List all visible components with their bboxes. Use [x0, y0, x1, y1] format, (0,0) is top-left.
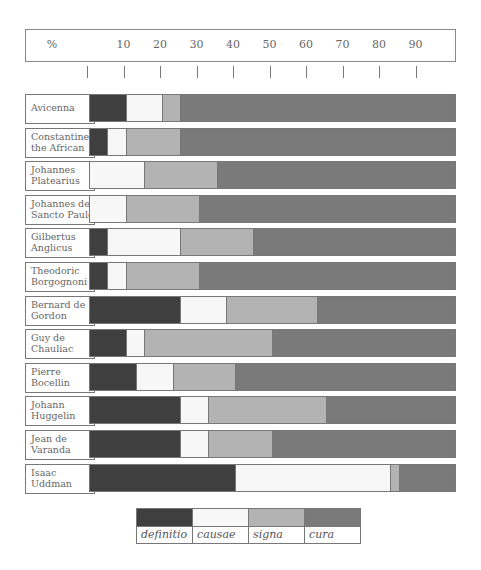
row-label-line2: Bocellin: [31, 377, 94, 388]
axis-tick-mark: [306, 66, 307, 78]
row-label-line2: Sancto Paulo: [31, 209, 94, 220]
row-label-line1: Jean de: [31, 433, 94, 444]
bar-segment-signa: [181, 229, 254, 255]
bar-segment-definitio: [90, 297, 181, 323]
bar-segment-cura: [181, 129, 455, 155]
axis-tick-mark: [343, 66, 344, 78]
axis-tick-mark: [416, 66, 417, 78]
row-label-line1: Bernard de: [31, 299, 94, 310]
axis-tick-label: 10: [117, 38, 131, 51]
axis-tick-mark: [233, 66, 234, 78]
legend-swatch-definitio: [137, 509, 193, 526]
axis-header-box: [25, 29, 456, 62]
bar-segment-signa: [145, 162, 218, 188]
row-label: Jean deVaranda: [25, 430, 95, 460]
row-label-line2: the African: [31, 142, 94, 153]
bar-segment-cura: [236, 364, 455, 390]
bar-segment-cura: [273, 431, 456, 457]
bar-segment-cura: [181, 95, 455, 121]
bar-segment-cura: [327, 397, 455, 423]
row-label: GilbertusAnglicus: [25, 228, 95, 258]
row-label-line2: Chauliac: [31, 343, 94, 354]
legend-label-cura: cura: [305, 527, 360, 543]
bar-segment-causae: [181, 431, 208, 457]
bar-segment-cura: [218, 162, 455, 188]
bar-segment-causae: [108, 129, 126, 155]
row-label-line2: Gordon: [31, 310, 94, 321]
bar-segment-causae: [127, 330, 145, 356]
bar-segment-signa: [163, 95, 181, 121]
row-label: IsaacUddman: [25, 464, 95, 494]
chart-row: TheodoricBorgognoni: [25, 262, 455, 290]
bar-segment-causae: [137, 364, 174, 390]
legend-swatch-signa: [249, 509, 305, 526]
row-label-line1: Johann: [31, 399, 94, 410]
row-label-line1: Gilbertus: [31, 231, 94, 242]
bar-segment-cura: [200, 263, 456, 289]
legend-label-signa: signa: [249, 527, 305, 543]
bar-segment-causae: [90, 196, 127, 222]
bar-segment-signa: [174, 364, 236, 390]
stacked-bar: [89, 464, 456, 492]
row-label: Constantinethe African: [25, 128, 95, 158]
legend-labels: definitiocausaesignacura: [137, 526, 360, 543]
bar-segment-causae: [127, 95, 164, 121]
row-label-line1: Guy de: [31, 332, 94, 343]
row-label-line1: Theodoric: [31, 265, 94, 276]
row-label-line2: Varanda: [31, 444, 94, 455]
bar-segment-signa: [209, 397, 328, 423]
axis-tick-label: 20: [153, 38, 167, 51]
legend-swatch-cura: [305, 509, 360, 526]
stacked-bar: [89, 161, 456, 189]
bar-segment-causae: [90, 162, 145, 188]
chart-row: JohannHuggelin: [25, 396, 455, 424]
bar-segment-cura: [273, 330, 456, 356]
axis-tick-mark: [124, 66, 125, 78]
row-label-line1: Pierre: [31, 366, 94, 377]
legend-swatches: [137, 509, 360, 526]
bar-segment-definitio: [90, 330, 127, 356]
chart-row: PierreBocellin: [25, 363, 455, 391]
axis-tick-label: 60: [299, 38, 313, 51]
row-label: PierreBocellin: [25, 363, 95, 393]
axis-tick-mark: [270, 66, 271, 78]
axis-tick-mark: [160, 66, 161, 78]
row-label: Johannes deSancto Paulo: [25, 195, 95, 225]
axis-tick-mark: [197, 66, 198, 78]
row-label-line1: Johannes: [31, 164, 94, 175]
stacked-bar: [89, 396, 456, 424]
bar-segment-definitio: [90, 364, 137, 390]
axis-unit-label: %: [47, 38, 57, 51]
stacked-bar: [89, 363, 456, 391]
bar-segment-definitio: [90, 263, 108, 289]
chart-row: Bernard deGordon: [25, 296, 455, 324]
chart-row: Constantinethe African: [25, 128, 455, 156]
chart-row: Avicenna: [25, 94, 455, 122]
row-label-line1: Johannes de: [31, 198, 94, 209]
bar-segment-cura: [254, 229, 455, 255]
bar-segment-signa: [209, 431, 273, 457]
axis-tick-label: 90: [409, 38, 423, 51]
row-label-line1: Isaac: [31, 467, 94, 478]
bar-segment-causae: [108, 229, 181, 255]
axis-tick-label: 70: [336, 38, 350, 51]
bar-segment-definitio: [90, 397, 181, 423]
chart-row: GilbertusAnglicus: [25, 228, 455, 256]
bar-segment-signa: [127, 196, 200, 222]
bar-segment-definitio: [90, 95, 127, 121]
bar-segment-signa: [227, 297, 318, 323]
legend-label-definitio: definitio: [137, 527, 193, 543]
bar-segment-causae: [181, 297, 227, 323]
stacked-bar: [89, 430, 456, 458]
axis-tick-label: 30: [190, 38, 204, 51]
bar-segment-definitio: [90, 129, 108, 155]
stacked-bar: [89, 94, 456, 122]
axis-tick-label: 40: [226, 38, 240, 51]
axis-tick-label: 50: [263, 38, 277, 51]
row-label: JohannesPlatearius: [25, 161, 95, 191]
axis-tick-mark: [379, 66, 380, 78]
row-label-line1: Avicenna: [31, 97, 94, 119]
bar-segment-definitio: [90, 431, 181, 457]
bar-segment-signa: [127, 263, 200, 289]
legend-label-causae: causae: [193, 527, 249, 543]
